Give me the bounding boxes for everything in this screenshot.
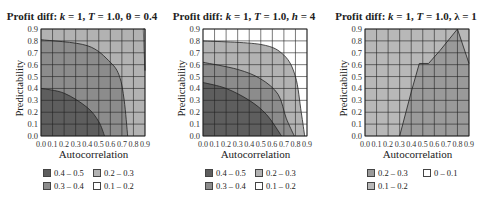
svg-text:0.9: 0.9 [27,24,38,34]
svg-text:0.3: 0.3 [351,95,362,105]
svg-text:0.4: 0.4 [27,83,38,93]
svg-text:0.6: 0.6 [27,60,38,70]
legend-swatch [255,182,263,190]
legend-swatch [423,169,431,177]
legend-swatch [43,182,51,190]
legend-swatch [367,182,375,190]
svg-text:0.6: 0.6 [351,60,362,70]
svg-text:0.1: 0.1 [27,119,38,129]
svg-text:0.5: 0.5 [27,72,38,82]
contour-plot: 0.00.00.10.10.20.20.30.30.40.40.50.50.60… [324,20,492,156]
svg-text:0.2: 0.2 [27,107,38,117]
svg-text:0.7: 0.7 [27,48,38,58]
svg-text:0.8: 0.8 [189,36,200,46]
chart-panel-theta: Profit diff: k = 1, T = 1.0, θ = 0.4 Pre… [0,0,164,198]
legend-item: 0.1 – 0.2 [93,181,134,191]
svg-text:0.7: 0.7 [189,48,200,58]
x-axis-label: Autocorrelation [203,148,308,160]
svg-text:0.8: 0.8 [27,36,38,46]
legend-swatch [93,182,101,190]
svg-text:0.9: 0.9 [351,24,362,34]
svg-text:0.5: 0.5 [351,72,362,82]
x-axis-label: Autocorrelation [365,148,470,160]
svg-text:0.3: 0.3 [27,95,38,105]
legend-item: 0.4 – 0.5 [205,168,246,178]
legend-item: 0.3 – 0.4 [205,181,246,191]
legend-item: 0 – 0.1 [423,168,457,178]
legend-swatch [255,169,263,177]
svg-text:0.1: 0.1 [351,119,362,129]
svg-text:0.6: 0.6 [189,60,200,70]
legend-item: 0.2 – 0.3 [367,168,408,178]
svg-text:0.1: 0.1 [189,119,200,129]
x-axis-label: Autocorrelation [41,148,146,160]
chart-panel-h: Profit diff: k = 1, T = 1.0, h = 4 Predi… [162,0,326,198]
legend-item: 0.2 – 0.3 [255,168,296,178]
legend-swatch [43,169,51,177]
legend-item: 0.4 – 0.5 [43,168,84,178]
svg-text:0.7: 0.7 [351,48,362,58]
legend-swatch [205,182,213,190]
legend-item: 0.1 – 0.2 [255,181,296,191]
legend-item: 0.1 – 0.2 [367,181,408,191]
svg-text:0.3: 0.3 [189,95,200,105]
contour-plot: 0.00.00.10.10.20.20.30.30.40.40.50.50.60… [162,20,326,156]
legend-item: 0.3 – 0.4 [43,181,84,191]
svg-text:0.9: 0.9 [189,24,200,34]
svg-text:0.2: 0.2 [351,107,362,117]
chart-panel-lambda: Profit diff: k = 1, T = 1.0, λ = 1 Predi… [324,0,488,198]
svg-text:0.4: 0.4 [351,83,362,93]
contour-plot: 0.00.00.10.10.20.20.30.30.40.40.50.50.60… [0,20,164,156]
legend-swatch [367,169,375,177]
legend-item: 0.2 – 0.3 [93,168,134,178]
legend-swatch [205,169,213,177]
svg-text:0.8: 0.8 [351,36,362,46]
svg-text:0.5: 0.5 [189,72,200,82]
svg-text:0.4: 0.4 [189,83,200,93]
svg-text:0.2: 0.2 [189,107,200,117]
legend-swatch [93,169,101,177]
